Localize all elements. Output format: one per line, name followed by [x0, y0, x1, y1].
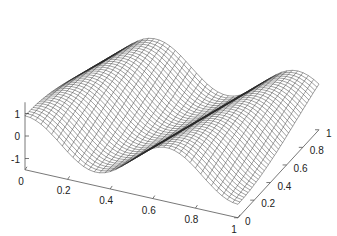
- mesh-line: [47, 94, 260, 176]
- mesh-line: [106, 38, 319, 96]
- mesh-line: [105, 61, 186, 172]
- mesh-line: [110, 67, 191, 171]
- mesh-line: [102, 42, 315, 100]
- mesh-line: [100, 44, 313, 102]
- surface-plot: 00.20.40.60.8100.20.40.60.81-101: [0, 0, 337, 236]
- mesh-line: [89, 46, 170, 170]
- z-tick-label: 0: [14, 131, 20, 142]
- x-tick-label: 0.6: [142, 205, 156, 216]
- x-tick-label: 0.8: [184, 214, 198, 225]
- y-tick-label: 0.2: [261, 198, 275, 209]
- mesh-line: [41, 50, 122, 124]
- x-tick-label: 0: [18, 176, 24, 187]
- mesh-line: [211, 70, 292, 185]
- mesh-line: [90, 54, 303, 112]
- mesh-line: [45, 96, 258, 179]
- y-tick-label: 0: [245, 216, 251, 227]
- y-tick-label: 0.4: [277, 181, 291, 192]
- mesh-line: [33, 107, 246, 195]
- x-tick-label: 1: [231, 224, 237, 235]
- x-tick: [110, 186, 112, 189]
- y-tick-label: 0.6: [294, 163, 308, 174]
- x-tick: [153, 196, 155, 199]
- mesh-line: [233, 79, 314, 202]
- mesh-line: [72, 71, 285, 140]
- z-tick-label: 1: [14, 109, 20, 120]
- x-tick: [68, 176, 70, 179]
- x-tick-label: 0.2: [57, 185, 71, 196]
- mesh-line: [70, 73, 283, 143]
- mesh-line: [142, 94, 223, 153]
- x-tick-label: 0.4: [99, 195, 113, 206]
- y-tick-label: 1: [326, 128, 332, 139]
- x-tick: [195, 205, 197, 208]
- y-tick-label: 0.8: [310, 145, 324, 156]
- z-tick-label: -1: [11, 154, 20, 165]
